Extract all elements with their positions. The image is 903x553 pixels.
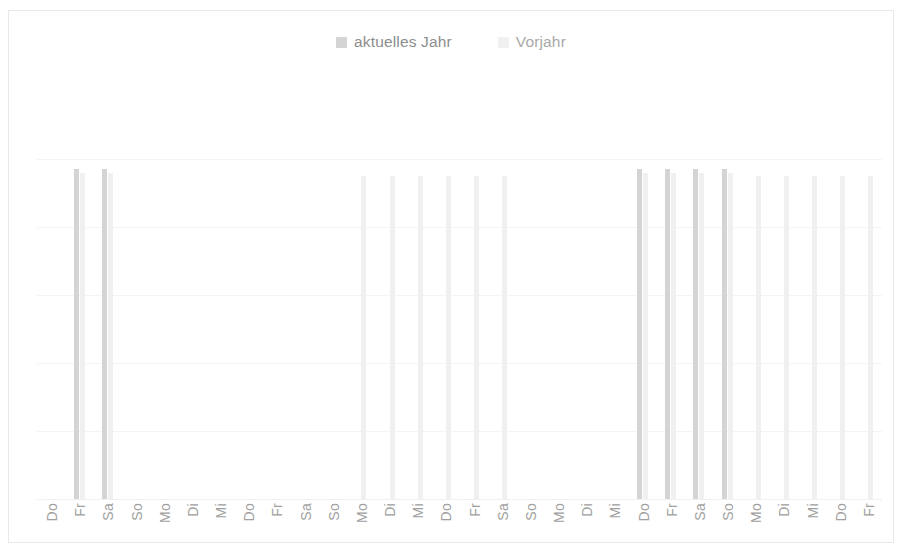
plot-area: [37, 159, 882, 499]
x-tick-label: Di: [579, 503, 595, 517]
bar[interactable]: [418, 176, 423, 499]
x-tick-label: Fr: [72, 503, 88, 517]
chart-frame: aktuelles Jahr Vorjahr DoFrSaSoMoDiMiDoF…: [8, 10, 894, 543]
x-tick-label: Do: [438, 503, 454, 522]
x-tick-label: Fr: [664, 503, 680, 517]
x-tick-label: Sa: [495, 503, 511, 521]
x-tick-label: So: [326, 503, 342, 521]
legend-item-vorjahr[interactable]: Vorjahr: [498, 33, 566, 51]
x-tick-label: Fr: [467, 503, 483, 517]
x-tick-label: Mo: [748, 503, 764, 523]
gridline: [37, 159, 882, 160]
x-tick-label: So: [129, 503, 145, 521]
bar[interactable]: [74, 169, 79, 499]
bar[interactable]: [756, 176, 761, 499]
x-tick-label: Mi: [607, 503, 623, 518]
bar[interactable]: [80, 173, 85, 499]
legend-label-vorjahr: Vorjahr: [516, 33, 566, 51]
bar[interactable]: [474, 176, 479, 499]
x-tick-label: Mi: [410, 503, 426, 518]
x-tick-label: Di: [185, 503, 201, 517]
bar[interactable]: [840, 176, 845, 499]
bar[interactable]: [699, 173, 704, 499]
x-axis-line: [37, 499, 882, 500]
x-axis-tick-labels: DoFrSaSoMoDiMiDoFrSaSoMoDiMiDoFrSaSoMoDi…: [37, 503, 882, 551]
bar[interactable]: [108, 173, 113, 499]
x-tick-label: Di: [776, 503, 792, 517]
x-tick-label: Mo: [157, 503, 173, 523]
bar[interactable]: [671, 173, 676, 499]
x-tick-label: So: [720, 503, 736, 521]
bar[interactable]: [812, 176, 817, 499]
bar[interactable]: [502, 176, 507, 499]
x-tick-label: Do: [833, 503, 849, 522]
x-tick-label: Mo: [551, 503, 567, 523]
x-tick-label: Sa: [100, 503, 116, 521]
chart-legend: aktuelles Jahr Vorjahr: [9, 33, 893, 51]
bar[interactable]: [728, 173, 733, 499]
x-tick-label: Fr: [861, 503, 877, 517]
legend-swatch-aktuelles-jahr: [336, 37, 347, 48]
legend-item-aktuelles-jahr[interactable]: aktuelles Jahr: [336, 33, 452, 51]
x-tick-label: Sa: [692, 503, 708, 521]
x-tick-label: Mi: [805, 503, 821, 518]
bar[interactable]: [102, 169, 107, 499]
bar[interactable]: [868, 176, 873, 499]
x-tick-label: Do: [636, 503, 652, 522]
x-tick-label: Do: [241, 503, 257, 522]
bar[interactable]: [722, 169, 727, 499]
bar[interactable]: [361, 176, 366, 499]
x-tick-label: Fr: [269, 503, 285, 517]
x-tick-label: Mi: [213, 503, 229, 518]
x-tick-label: So: [523, 503, 539, 521]
legend-label-aktuelles-jahr: aktuelles Jahr: [354, 33, 452, 51]
bar[interactable]: [637, 169, 642, 499]
bar[interactable]: [665, 169, 670, 499]
bar[interactable]: [643, 173, 648, 499]
bar[interactable]: [446, 176, 451, 499]
x-tick-label: Sa: [298, 503, 314, 521]
bar[interactable]: [390, 176, 395, 499]
x-tick-label: Mo: [354, 503, 370, 523]
bar[interactable]: [784, 176, 789, 499]
x-tick-label: Di: [382, 503, 398, 517]
legend-swatch-vorjahr: [498, 37, 509, 48]
x-tick-label: Do: [44, 503, 60, 522]
bar[interactable]: [693, 169, 698, 499]
